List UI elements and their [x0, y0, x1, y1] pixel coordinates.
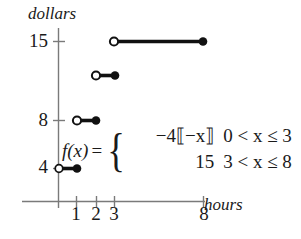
formula-equals-sign: =	[91, 140, 105, 162]
open-endpoint	[110, 37, 118, 45]
formula-brace: {	[107, 130, 125, 171]
y-axis-title: dollars	[28, 4, 76, 24]
formula-case-expression: 15	[128, 151, 223, 173]
formula-case-condition: 3 < x ≤ 8	[223, 151, 301, 173]
formula-case-condition: 0 < x ≤ 3	[223, 125, 301, 147]
x-tick-label-3: 3	[102, 203, 126, 225]
step-function-figure: dollars hours 15 8 4 1 2 3 8 f(x) = { −4…	[0, 0, 301, 239]
piecewise-formula: f(x) = { −4⟦−x⟧ 0 < x ≤ 3 15 3 < x ≤ 8	[62, 124, 301, 178]
filled-endpoint	[111, 71, 120, 80]
open-endpoint	[92, 71, 100, 79]
formula-cases: −4⟦−x⟧ 0 < x ≤ 3 15 3 < x ≤ 8	[128, 124, 301, 178]
formula-function-name: f(x)	[62, 140, 91, 162]
y-tick-label-8: 8	[18, 109, 48, 131]
y-tick-label-4: 4	[18, 156, 48, 178]
x-tick-label-8: 8	[192, 203, 216, 225]
y-tick-label-15: 15	[18, 30, 48, 52]
formula-case-row: −4⟦−x⟧ 0 < x ≤ 3	[128, 124, 301, 151]
formula-case-row: 15 3 < x ≤ 8	[128, 151, 301, 178]
step-segment-3-to-8	[110, 37, 207, 46]
step-segment-2-to-3	[92, 71, 119, 80]
filled-endpoint	[199, 37, 208, 46]
formula-case-expression: −4⟦−x⟧	[128, 124, 223, 147]
